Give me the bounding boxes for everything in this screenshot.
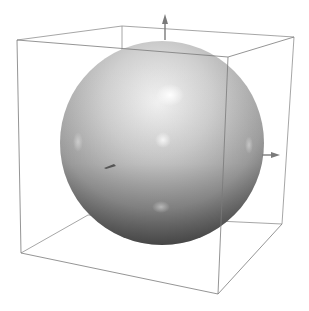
specular-highlight bbox=[155, 132, 171, 148]
scene-canvas bbox=[0, 0, 309, 311]
3d-viewport[interactable] bbox=[0, 0, 309, 311]
specular-highlight bbox=[245, 136, 253, 154]
specular-highlight bbox=[152, 201, 170, 213]
specular-highlight bbox=[73, 132, 83, 152]
specular-highlight bbox=[156, 84, 184, 106]
up-arrow-icon[interactable] bbox=[162, 14, 168, 40]
right-arrow-icon[interactable] bbox=[262, 152, 280, 158]
sphere[interactable] bbox=[60, 41, 264, 245]
